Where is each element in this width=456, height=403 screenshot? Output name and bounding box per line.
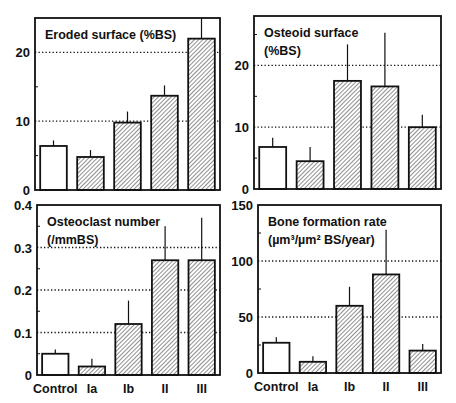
panel-title: Osteoid surface [264, 26, 359, 40]
chart-panel-eroded-surface-bs: 01020Eroded surface (%BS) [16, 18, 220, 198]
x-tick-label-ia: Ia [308, 380, 319, 394]
bar-ia [297, 161, 324, 189]
panel-title: (%BS) [264, 44, 301, 58]
bar-ib [114, 123, 141, 190]
chart-panel-osteoid-surface: 01020Osteoid surface(%BS) [235, 16, 441, 197]
panel-title: (µm³/µm² BS/year) [268, 233, 375, 247]
bar-ii [371, 86, 398, 189]
y-tick-label: 0 [23, 183, 30, 198]
y-tick-label: 0.4 [14, 198, 33, 213]
bar-iii [409, 127, 436, 189]
x-tick-label-ia: Ia [87, 382, 98, 396]
bar-iii [410, 351, 436, 373]
figure: 01020Eroded surface (%BS)01020Osteoid su… [0, 0, 456, 403]
y-tick-label: 10 [16, 114, 30, 129]
y-tick-label: 50 [239, 310, 253, 325]
y-tick-label: 0.3 [14, 241, 32, 256]
bar-control [42, 354, 68, 375]
y-tick-label: 0 [25, 368, 32, 383]
y-tick-label: 0.1 [14, 326, 32, 341]
bar-ia [300, 362, 326, 373]
bar-iii [188, 39, 215, 190]
bar-ib [115, 324, 141, 375]
bar-ii [151, 96, 178, 190]
chart-panel-bone-formation-rate: 050100150Bone formation rate(µm³/µm² BS/… [231, 198, 441, 394]
bar-ii [152, 260, 178, 375]
bar-iii [189, 260, 215, 375]
bar-ia [77, 157, 104, 190]
x-tick-label-ii: II [162, 382, 169, 396]
y-tick-label: 10 [235, 120, 249, 135]
y-tick-label: 100 [231, 254, 253, 269]
bar-ib [334, 81, 361, 189]
y-tick-label: 0 [242, 182, 249, 197]
x-tick-label-control: Control [33, 382, 77, 396]
bar-ib [336, 306, 362, 373]
panel-title: Eroded surface (%BS) [45, 28, 176, 42]
y-tick-label: 20 [16, 45, 30, 60]
panel-title: Bone formation rate [268, 215, 387, 229]
x-tick-label-iii: III [417, 380, 427, 394]
panel-title: (/mmBS) [47, 233, 98, 247]
x-tick-label-ib: Ib [344, 380, 355, 394]
x-tick-label-ib: Ib [123, 382, 134, 396]
x-tick-label-iii: III [196, 382, 206, 396]
bar-control [263, 343, 289, 373]
bar-ia [79, 367, 105, 376]
y-tick-label: 0.2 [14, 283, 32, 298]
x-tick-label-control: Control [254, 380, 298, 394]
chart-panel-osteoclast-number: 00.10.20.30.4Osteoclast number(/mmBS)Con… [14, 198, 220, 396]
y-tick-label: 150 [231, 198, 253, 213]
y-tick-label: 0 [246, 366, 253, 381]
bar-control [40, 146, 67, 190]
y-tick-label: 20 [235, 58, 249, 73]
x-tick-label-ii: II [383, 380, 390, 394]
bar-control [259, 147, 286, 189]
bar-ii [373, 274, 399, 373]
panel-title: Osteoclast number [47, 215, 160, 229]
